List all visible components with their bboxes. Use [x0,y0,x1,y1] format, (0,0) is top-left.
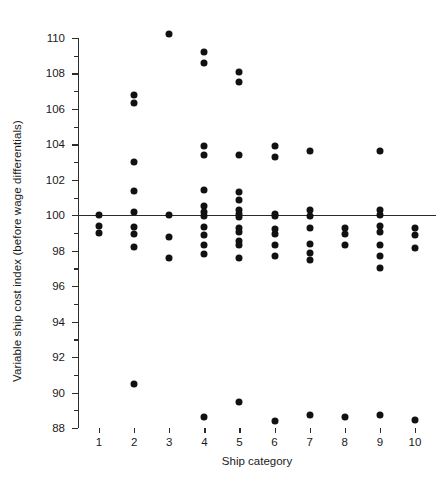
y-tick-minor-99 [74,233,78,234]
y-tick-label-88: 88 [52,422,65,434]
data-point [376,229,383,236]
data-point [236,399,243,406]
data-point [271,230,278,237]
data-point [271,153,278,160]
data-point [96,222,103,229]
data-point [166,30,173,37]
y-tick-label-100: 100 [46,209,65,221]
y-tick-minor-89 [74,410,78,411]
data-point [376,265,383,272]
y-tick-label-94: 94 [52,316,65,328]
y-tick-minor-109 [74,56,78,57]
data-point [166,234,173,241]
x-tick-label-5: 5 [236,436,242,448]
data-point [306,224,313,231]
data-point [306,240,313,247]
data-point [96,230,103,237]
scatter-chart-figure: Variable ship cost index (before wage di… [0,0,445,502]
y-tick-label-102: 102 [46,174,65,186]
y-tick-92: 92 [72,357,78,358]
data-point [236,214,243,221]
x-tick-label-4: 4 [201,436,207,448]
data-point [271,242,278,249]
x-tick-9 [380,428,381,433]
data-point [201,152,208,159]
data-point [131,244,138,251]
x-tick-label-6: 6 [271,436,277,448]
data-point [131,159,138,166]
data-point [131,91,138,98]
data-point [411,231,418,238]
y-tick-98: 98 [72,251,78,252]
data-point [131,99,138,106]
data-point [201,49,208,56]
y-tick-label-92: 92 [52,351,65,363]
data-point [236,229,243,236]
data-point [341,242,348,249]
x-tick-label-3: 3 [166,436,172,448]
x-tick-label-8: 8 [342,436,348,448]
y-tick-minor-101 [74,198,78,199]
y-tick-label-110: 110 [47,32,65,44]
data-point [236,254,243,261]
x-tick-label-7: 7 [306,436,312,448]
data-point [236,197,243,204]
y-tick-102: 102 [72,180,78,181]
y-tick-minor-103 [74,162,78,163]
data-point [271,143,278,150]
data-point [376,242,383,249]
data-point [201,213,208,220]
y-tick-label-106: 106 [46,103,65,115]
x-tick-2 [134,428,135,433]
x-tick-label-1: 1 [96,436,102,448]
data-point [271,417,278,424]
y-tick-label-104: 104 [46,138,65,150]
data-point [411,224,418,231]
data-point [306,148,313,155]
data-point [236,68,243,75]
data-point [341,230,348,237]
y-tick-label-90: 90 [52,387,65,399]
data-point [131,208,138,215]
x-tick-7 [310,428,311,433]
x-tick-4 [204,428,205,433]
y-tick-94: 94 [72,322,78,323]
y-tick-label-96: 96 [52,280,65,292]
y-tick-108: 108 [72,73,78,74]
data-point [201,231,208,238]
data-point [236,152,243,159]
data-point [376,212,383,219]
data-point [166,254,173,261]
x-axis-title: Ship category [78,455,436,467]
data-point [201,242,208,249]
x-tick-1 [99,428,100,433]
y-tick-minor-105 [74,127,78,128]
y-tick-label-98: 98 [52,245,65,257]
data-point [271,253,278,260]
y-axis-line [78,38,79,428]
y-tick-minor-91 [74,375,78,376]
data-point [96,212,103,219]
data-point [306,213,313,220]
x-tick-label-9: 9 [377,436,383,448]
data-point [166,212,173,219]
data-point [131,223,138,230]
data-point [411,245,418,252]
x-tick-6 [275,428,276,433]
y-tick-90: 90 [72,393,78,394]
data-point [201,143,208,150]
x-tick-label-2: 2 [131,436,137,448]
data-point [201,223,208,230]
plot-area: 8890929496981001021041061081101234567891… [78,38,436,428]
data-point [411,417,418,424]
data-point [131,380,138,387]
y-tick-label-108: 108 [46,67,65,79]
y-axis-title: Variable ship cost index (before wage di… [0,0,34,502]
x-tick-3 [169,428,170,433]
x-tick-10 [415,428,416,433]
data-point [236,189,243,196]
data-point [271,213,278,220]
data-point [236,242,243,249]
y-tick-minor-97 [74,268,78,269]
x-tick-5 [239,428,240,433]
